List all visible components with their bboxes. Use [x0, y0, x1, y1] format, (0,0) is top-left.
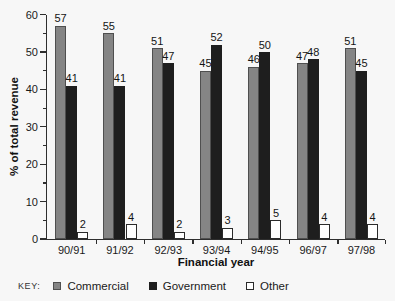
y-axis-line — [46, 15, 47, 241]
legend-key-label: KEY: — [18, 281, 40, 291]
bar-value-label: 55 — [98, 20, 120, 33]
bar-value-label: 50 — [254, 39, 276, 52]
x-axis-category-label: 94/95 — [243, 244, 287, 256]
x-axis-category-label: 93/94 — [195, 244, 239, 256]
x-axis-category-label: 90/91 — [50, 244, 94, 256]
legend-item-label: Commercial — [67, 280, 128, 292]
y-axis-tick-label: 50 — [16, 46, 38, 58]
bar-other-96/97 — [319, 224, 330, 239]
legend-swatch-other — [246, 282, 254, 290]
bar-value-label: 4 — [362, 211, 384, 224]
bar-other-92/93 — [174, 232, 185, 239]
bar-value-label: 57 — [50, 12, 72, 25]
legend-item-government: Government — [149, 280, 226, 292]
bar-commercial-96/97 — [297, 63, 308, 239]
legend-item-label: Government — [163, 280, 226, 292]
x-axis-title: Financial year — [47, 256, 385, 269]
y-axis-major-tick — [40, 164, 46, 165]
bar-commercial-94/95 — [248, 67, 259, 239]
y-axis-major-tick — [40, 238, 46, 239]
bar-other-93/94 — [222, 228, 233, 239]
x-axis-end-tick — [385, 240, 386, 244]
x-axis-category-label: 97/98 — [339, 244, 383, 256]
bar-other-94/95 — [270, 220, 281, 239]
x-axis-category-label: 96/97 — [291, 244, 335, 256]
bar-government-92/93 — [163, 63, 174, 239]
y-axis-minor-tick — [43, 108, 46, 109]
bar-value-label: 4 — [120, 211, 142, 224]
y-axis-minor-tick — [43, 182, 46, 183]
bar-value-label: 48 — [302, 46, 324, 59]
y-axis-major-tick — [40, 201, 46, 202]
y-axis-tick-label: 0 — [16, 233, 38, 245]
bar-commercial-91/92 — [103, 33, 114, 239]
bar-value-label: 51 — [339, 35, 361, 48]
legend-swatch-government — [149, 282, 157, 290]
bar-value-label: 41 — [61, 72, 83, 85]
legend-swatch-commercial — [53, 282, 61, 290]
x-axis-tick — [337, 240, 338, 244]
bar-other-90/91 — [77, 232, 88, 239]
bar-value-label: 51 — [146, 35, 168, 48]
x-axis-category-label: 91/92 — [98, 244, 142, 256]
legend-item-label: Other — [260, 280, 289, 292]
bar-value-label: 45 — [350, 57, 372, 70]
y-axis-tick-label: 30 — [16, 121, 38, 133]
x-axis-tick — [289, 240, 290, 244]
x-axis-tick — [96, 240, 97, 244]
legend-item-commercial: Commercial — [53, 280, 128, 292]
bar-government-90/91 — [66, 86, 77, 239]
bar-value-label: 2 — [168, 218, 190, 231]
bar-value-label: 5 — [265, 207, 287, 220]
y-axis-minor-tick — [43, 33, 46, 34]
x-axis-tick — [192, 240, 193, 244]
y-axis-tick-label: 60 — [16, 9, 38, 21]
bar-commercial-93/94 — [200, 71, 211, 239]
bar-value-label: 2 — [72, 218, 94, 231]
y-axis-major-tick — [40, 51, 46, 52]
bar-commercial-90/91 — [55, 26, 66, 239]
bar-value-label: 41 — [109, 72, 131, 85]
bar-commercial-97/98 — [345, 48, 356, 239]
bar-other-91/92 — [126, 224, 137, 239]
y-axis-major-tick — [40, 126, 46, 127]
bar-value-label: 4 — [313, 211, 335, 224]
y-axis-major-tick — [40, 14, 46, 15]
bar-chart-figure: % of total revenue Financial year KEY: C… — [0, 0, 395, 301]
bar-value-label: 52 — [206, 31, 228, 44]
y-axis-minor-tick — [43, 70, 46, 71]
y-axis-minor-tick — [43, 145, 46, 146]
bar-value-label: 47 — [157, 50, 179, 63]
y-axis-minor-tick — [43, 220, 46, 221]
bar-commercial-92/93 — [152, 48, 163, 239]
x-axis-category-label: 92/93 — [146, 244, 190, 256]
x-axis-tick — [144, 240, 145, 244]
bar-other-97/98 — [367, 224, 378, 239]
y-axis-tick-label: 20 — [16, 158, 38, 170]
y-axis-tick-label: 10 — [16, 196, 38, 208]
bar-value-label: 3 — [217, 214, 239, 227]
legend: KEY: CommercialGovernmentOther — [18, 278, 309, 294]
x-axis-tick — [241, 240, 242, 244]
bar-government-93/94 — [211, 45, 222, 239]
legend-item-other: Other — [246, 280, 289, 292]
y-axis-major-tick — [40, 89, 46, 90]
y-axis-tick-label: 40 — [16, 83, 38, 95]
